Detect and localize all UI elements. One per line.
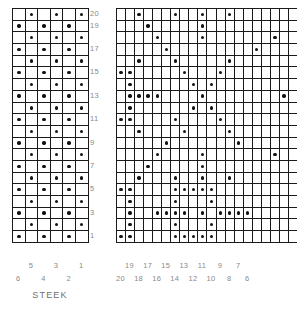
motif-cell-filled — [171, 9, 180, 21]
motif-cell-filled — [117, 184, 126, 196]
motif-cell-filled — [198, 91, 207, 103]
motif-cell-filled — [126, 184, 135, 196]
motif-cell-empty — [207, 9, 216, 21]
motif-cell-filled — [207, 231, 216, 243]
steek-cell-empty — [38, 56, 51, 68]
motif-cell-filled — [271, 149, 280, 161]
motif-cell-empty — [144, 149, 153, 161]
steek-cell-empty — [63, 79, 76, 91]
motif-cell-empty — [244, 196, 253, 208]
steek-cell-filled — [51, 149, 64, 161]
motif-cell-filled — [180, 126, 189, 138]
motif-cell-empty — [171, 161, 180, 173]
motif-cell-empty — [253, 67, 262, 79]
motif-cell-empty — [226, 67, 235, 79]
motif-cell-empty — [271, 219, 280, 231]
steek-cell-empty — [63, 173, 76, 185]
motif-cell-empty — [162, 114, 171, 126]
motif-cell-empty — [289, 208, 297, 220]
motif-cell-empty — [244, 32, 253, 44]
motif-cell-filled — [207, 219, 216, 231]
motif-cell-filled — [180, 67, 189, 79]
motif-cell-empty — [217, 21, 226, 33]
steek-cell-filled — [26, 196, 39, 208]
steek-cell-filled — [63, 114, 76, 126]
motif-cell-empty — [253, 231, 262, 243]
motif-cell-empty — [217, 126, 226, 138]
motif-cell-empty — [235, 21, 244, 33]
motif-cell-empty — [217, 91, 226, 103]
motif-cell-empty — [226, 219, 235, 231]
steek-cell-empty — [63, 32, 76, 44]
motif-cell-empty — [180, 114, 189, 126]
motif-cell-empty — [135, 44, 144, 56]
motif-cell-empty — [117, 44, 126, 56]
motif-cell-empty — [280, 103, 289, 115]
motif-cell-filled — [235, 208, 244, 220]
motif-cell-filled — [217, 67, 226, 79]
motif-cell-empty — [289, 173, 297, 185]
steek-cell-empty — [26, 44, 39, 56]
steek-cell-empty — [13, 219, 26, 231]
motif-cell-empty — [289, 138, 297, 150]
steek-cell-filled — [63, 67, 76, 79]
motif-cell-empty — [144, 79, 153, 91]
motif-cell-empty — [171, 103, 180, 115]
motif-cell-filled — [135, 56, 144, 68]
motif-cell-empty — [262, 208, 271, 220]
motif-cell-empty — [153, 103, 162, 115]
motif-cell-empty — [253, 114, 262, 126]
motif-cell-filled — [126, 219, 135, 231]
motif-cell-empty — [262, 173, 271, 185]
motif-cell-empty — [289, 9, 297, 21]
motif-cell-empty — [235, 114, 244, 126]
motif-cell-empty — [226, 184, 235, 196]
motif-cell-empty — [162, 149, 171, 161]
motif-cell-empty — [207, 138, 216, 150]
motif-cell-empty — [253, 103, 262, 115]
motif-cell-filled — [280, 91, 289, 103]
motif-cell-empty — [162, 67, 171, 79]
steek-cell-filled — [51, 9, 64, 21]
motif-cell-empty — [244, 21, 253, 33]
motif-cell-empty — [280, 126, 289, 138]
motif-cell-empty — [162, 103, 171, 115]
motif-cell-empty — [189, 161, 198, 173]
motif-cell-filled — [207, 196, 216, 208]
motif-cell-empty — [135, 79, 144, 91]
motif-cell-filled — [189, 103, 198, 115]
motif-cell-empty — [289, 21, 297, 33]
motif-cell-filled — [171, 231, 180, 243]
motif-cell-filled — [162, 44, 171, 56]
motif-cell-empty — [262, 161, 271, 173]
motif-cell-empty — [207, 126, 216, 138]
motif-cell-empty — [280, 32, 289, 44]
steek-cell-filled — [38, 44, 51, 56]
motif-cell-empty — [217, 161, 226, 173]
steek-cell-filled — [13, 161, 26, 173]
motif-cell-empty — [226, 79, 235, 91]
steek-cell-filled — [63, 138, 76, 150]
steek-cell-empty — [51, 91, 64, 103]
steek-caption: STEEK — [32, 290, 68, 300]
motif-cell-empty — [244, 161, 253, 173]
motif-cell-empty — [144, 196, 153, 208]
steek-cell-filled — [63, 184, 76, 196]
motif-cell-empty — [271, 91, 280, 103]
motif-column-number: 18 — [134, 275, 143, 283]
motif-cell-empty — [253, 126, 262, 138]
motif-cell-empty — [135, 138, 144, 150]
motif-cell-filled — [144, 21, 153, 33]
motif-cell-empty — [180, 149, 189, 161]
steek-cell-empty — [76, 91, 89, 103]
motif-cell-empty — [253, 32, 262, 44]
motif-cell-filled — [198, 184, 207, 196]
motif-cell-empty — [144, 103, 153, 115]
motif-cell-empty — [207, 32, 216, 44]
steek-cell-filled — [51, 103, 64, 115]
motif-cell-empty — [153, 219, 162, 231]
steek-cell-filled — [51, 173, 64, 185]
motif-cell-empty — [198, 138, 207, 150]
motif-cell-empty — [198, 114, 207, 126]
motif-cell-filled — [226, 9, 235, 21]
